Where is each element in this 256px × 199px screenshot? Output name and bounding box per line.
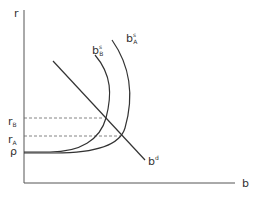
demand-curve	[53, 61, 145, 160]
rho-label: ρ	[10, 146, 17, 157]
supply-a-base: b	[126, 32, 133, 45]
r-b-sub: B	[13, 121, 17, 128]
demand-sup: d	[155, 154, 159, 161]
demand-base: b	[148, 155, 155, 168]
supply-b-base: b	[92, 44, 99, 57]
supply-a-sup: s	[133, 31, 136, 38]
supply-a-sub: A	[133, 38, 137, 45]
supply-b-sub: B	[99, 50, 103, 57]
demand-label: bd	[148, 152, 159, 168]
r-b-label: rB	[8, 112, 17, 128]
supply-a-label: bsA	[126, 29, 137, 45]
supply-b-sup: s	[99, 43, 102, 50]
r-a-label: rA	[8, 130, 17, 146]
supply-b-label: bsB	[92, 41, 103, 57]
x-axis-label: b	[242, 178, 249, 189]
r-b-base: r	[8, 115, 13, 128]
supply-curve-b	[24, 55, 110, 152]
y-axis-label: r	[14, 8, 19, 19]
